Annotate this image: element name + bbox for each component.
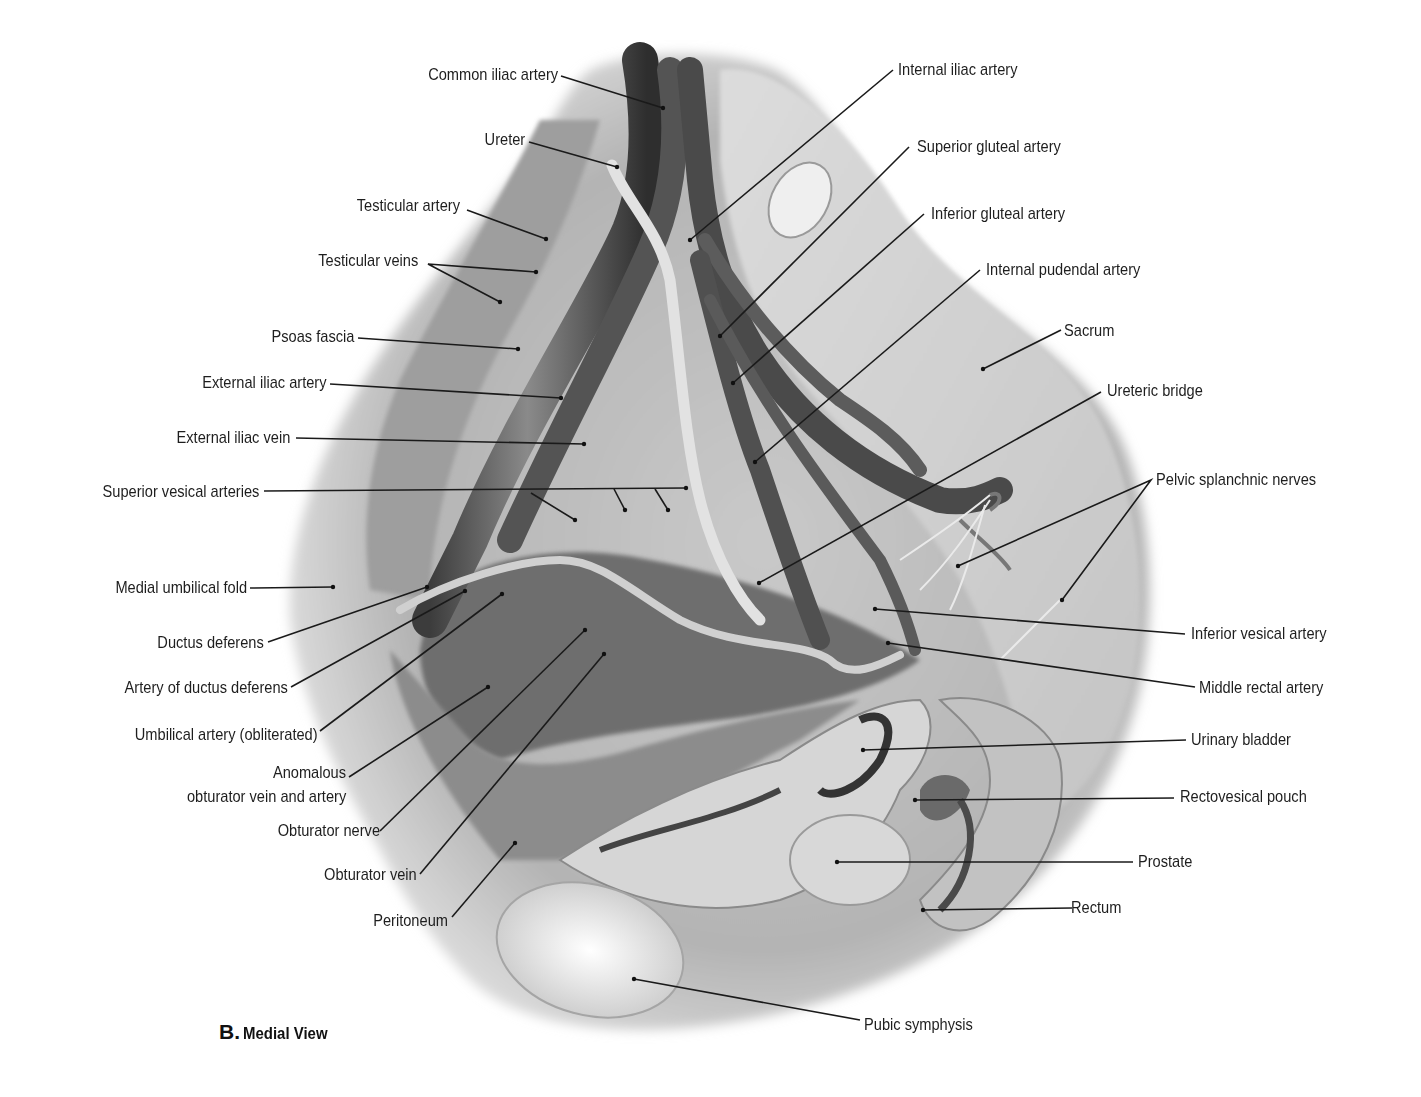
label-common-iliac-artery: Common iliac artery [428, 65, 558, 84]
label-anomalous-obturator-vein-artery: obturator vein and artery [187, 787, 346, 806]
label-internal-pudendal-artery: Internal pudendal artery [986, 260, 1140, 279]
label-pubic-symphysis: Pubic symphysis [864, 1015, 973, 1034]
label-sacrum: Sacrum [1064, 321, 1114, 340]
panel-letter: B. [219, 1020, 240, 1043]
label-inferior-vesical-artery: Inferior vesical artery [1191, 624, 1327, 643]
anatomy-figure: Common iliac artery Ureter Testicular ar… [0, 0, 1421, 1097]
label-ureteric-bridge: Ureteric bridge [1107, 381, 1203, 400]
label-peritoneum: Peritoneum [373, 911, 448, 930]
label-external-iliac-vein: External iliac vein [176, 428, 290, 447]
label-ureter: Ureter [484, 130, 525, 149]
label-anomalous-line1: Anomalous [273, 763, 346, 782]
label-testicular-artery: Testicular artery [357, 196, 460, 215]
label-obturator-vein: Obturator vein [324, 865, 417, 884]
label-testicular-veins: Testicular veins [318, 251, 418, 270]
label-external-iliac-artery: External iliac artery [203, 373, 327, 392]
label-umbilical-artery-obliterated: Umbilical artery (obliterated) [135, 725, 318, 744]
label-urinary-bladder: Urinary bladder [1191, 730, 1291, 749]
pelvis-illustration [0, 0, 1421, 1097]
label-psoas-fascia: Psoas fascia [271, 327, 354, 346]
label-medial-umbilical-fold: Medial umbilical fold [115, 578, 247, 597]
label-ductus-deferens: Ductus deferens [158, 633, 264, 652]
label-prostate: Prostate [1138, 852, 1192, 871]
label-superior-vesical-arteries: Superior vesical arteries [102, 482, 259, 501]
label-rectum: Rectum [1071, 898, 1121, 917]
label-superior-gluteal-artery: Superior gluteal artery [917, 137, 1061, 156]
label-artery-of-ductus-deferens: Artery of ductus deferens [125, 678, 288, 697]
prostate-shape [790, 815, 910, 905]
label-inferior-gluteal-artery: Inferior gluteal artery [931, 204, 1065, 223]
label-rectovesical-pouch: Rectovesical pouch [1180, 787, 1307, 806]
label-internal-iliac-artery: Internal iliac artery [898, 60, 1017, 79]
label-middle-rectal-artery: Middle rectal artery [1199, 678, 1323, 697]
label-obturator-nerve: Obturator nerve [278, 821, 380, 840]
label-pelvic-splanchnic-nerves: Pelvic splanchnic nerves [1156, 470, 1316, 489]
figure-caption: B.Medial View [219, 1020, 339, 1044]
view-title: Medial View [243, 1024, 328, 1044]
